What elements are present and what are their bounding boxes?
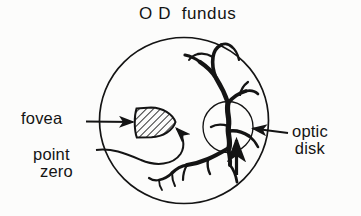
figure-canvas: O D fundus fovea pointzero opticdisk [0, 0, 361, 216]
point-zero-label-line2: zero [33, 163, 73, 180]
optic-disk-label-line2: disk [292, 140, 328, 157]
optic-disk-label: opticdisk [292, 123, 328, 157]
point-zero-label: pointzero [33, 146, 73, 180]
fundus-diagram [0, 0, 361, 216]
optic-disk-label-line1: optic [292, 122, 328, 140]
point-zero-label-line1: point [33, 145, 70, 163]
fovea-leader [86, 122, 133, 123]
figure-title: O D fundus [139, 5, 236, 23]
fovea-shape [135, 108, 176, 138]
optic-disk-leader [253, 129, 288, 134]
fovea-label: fovea [21, 110, 62, 127]
